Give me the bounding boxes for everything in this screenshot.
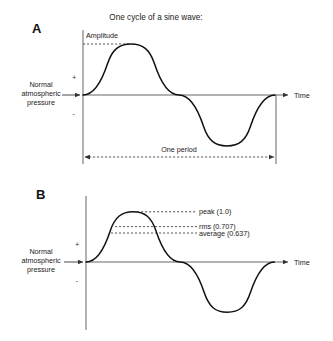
panel-b-origin-label-line2: atmospheric	[21, 256, 61, 265]
panel-a: A One cycle of a sine wave: Amplitude On…	[21, 13, 309, 164]
panel-a-time-label: Time	[294, 91, 310, 100]
panel-a-one-period-label: One period	[161, 145, 197, 154]
panel-b-peak-label: peak (1.0)	[199, 207, 231, 216]
figure-title: One cycle of a sine wave:	[109, 13, 202, 22]
panel-a-plus-sign: +	[72, 73, 77, 82]
sine-wave-figure: A One cycle of a sine wave: Amplitude On…	[0, 0, 333, 341]
panel-a-amplitude-label: Amplitude	[86, 31, 118, 40]
panel-b-origin-label-line1: Normal	[29, 247, 53, 256]
panel-a-origin-label-line1: Normal	[29, 80, 53, 89]
panel-b-time-label: Time	[294, 258, 310, 267]
panel-b-minus-sign: -	[76, 276, 79, 285]
panel-b: B peak (1.0) rms (0.707) average (0.637)…	[21, 187, 309, 330]
panel-b-letter: B	[36, 187, 45, 202]
figure-canvas: A One cycle of a sine wave: Amplitude On…	[0, 0, 333, 341]
panel-a-origin-label-line3: pressure	[27, 98, 55, 107]
panel-b-origin-label-line3: pressure	[27, 265, 55, 274]
panel-a-letter: A	[32, 21, 42, 36]
panel-b-plus-sign: +	[75, 240, 80, 249]
panel-b-average-label: average (0.637)	[199, 229, 250, 238]
panel-a-origin-label-line2: atmospheric	[21, 89, 61, 98]
panel-a-minus-sign: -	[73, 109, 76, 118]
